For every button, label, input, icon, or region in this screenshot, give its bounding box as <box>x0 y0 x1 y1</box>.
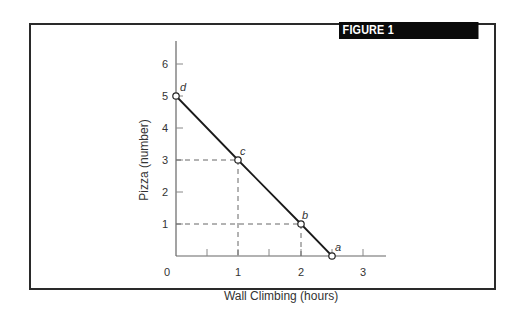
point-b <box>298 221 304 227</box>
x-tick-labels: 0 1 2 3 <box>164 266 366 278</box>
svg-text:0: 0 <box>164 266 170 278</box>
svg-text:3: 3 <box>162 154 168 166</box>
point-c <box>235 157 241 163</box>
ppf-line <box>176 96 332 256</box>
svg-text:1: 1 <box>235 266 241 278</box>
svg-text:5: 5 <box>162 90 168 102</box>
svg-text:3: 3 <box>360 266 366 278</box>
point-label-c: c <box>240 145 246 157</box>
point-a <box>329 253 335 259</box>
point-d <box>173 93 179 99</box>
point-label-b: b <box>302 209 308 221</box>
svg-text:2: 2 <box>298 266 304 278</box>
svg-text:2: 2 <box>162 186 168 198</box>
svg-text:4: 4 <box>162 122 168 134</box>
svg-text:6: 6 <box>162 58 168 70</box>
svg-text:1: 1 <box>162 218 168 230</box>
y-axis-title: Pizza (number) <box>137 119 151 200</box>
chart-area: d c b a 1 2 3 4 5 6 0 1 2 3 Wall Climbin… <box>0 0 519 320</box>
point-label-a: a <box>335 241 341 253</box>
y-tick-labels: 1 2 3 4 5 6 <box>162 58 168 230</box>
reference-lines <box>176 160 301 256</box>
x-axis-title: Wall Climbing (hours) <box>224 289 338 303</box>
point-label-d: d <box>180 81 187 93</box>
